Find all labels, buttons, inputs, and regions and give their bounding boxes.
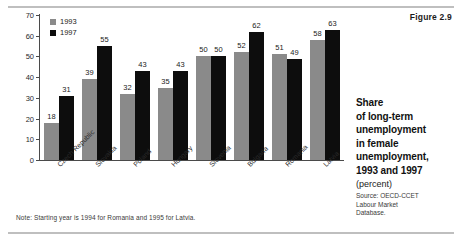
caption-title-line: of long-term: [356, 110, 456, 124]
caption-title: Shareof long-termunemploymentin femaleun…: [356, 96, 456, 177]
bar-value-label: 55: [100, 35, 108, 44]
bar-value-label: 63: [328, 19, 336, 28]
y-axis: 010203040506070: [14, 14, 40, 161]
bar-1993: 50: [196, 56, 211, 160]
y-tick-label: 30: [26, 93, 34, 102]
bar-group: 5149: [268, 54, 306, 160]
top-rule: [8, 6, 454, 8]
bar-value-label: 49: [290, 48, 298, 57]
caption-title-line: 1993 and 1997: [356, 164, 456, 178]
bar-group: 5863: [306, 30, 344, 161]
y-tick-label: 40: [26, 73, 34, 82]
figure-number: Figure 2.9: [410, 12, 452, 22]
bar-value-label: 58: [313, 29, 321, 38]
bar-1993: 58: [310, 40, 325, 160]
caption-title-line: unemployment,: [356, 150, 456, 164]
bar-value-label: 51: [275, 43, 283, 52]
caption-unit: (percent): [356, 178, 456, 190]
y-tick-label: 0: [30, 156, 34, 165]
bar-1993: 51: [272, 54, 287, 160]
bar-1993: 52: [234, 52, 249, 160]
y-tick-label: 50: [26, 52, 34, 61]
caption-title-line: unemployment: [356, 123, 456, 137]
bar-1993: 35: [158, 88, 173, 161]
y-tick-label: 10: [26, 135, 34, 144]
figure-panel: Figure 2.9 010203040506070 1993 1997 183…: [0, 0, 460, 244]
caption-title-line: in female: [356, 137, 456, 151]
caption-source: Source: OECD-CCETLabour MarketDatabase.: [356, 192, 456, 218]
bar-value-label: 52: [237, 41, 245, 50]
bar-value-label: 32: [123, 83, 131, 92]
bar-1997: 63: [325, 30, 340, 161]
bar-group: 3243: [116, 71, 154, 160]
bar-value-label: 50: [214, 45, 222, 54]
bar-value-label: 50: [199, 45, 207, 54]
caption-source-line: Database.: [356, 209, 456, 218]
bar-group: 5050: [192, 56, 230, 160]
y-tick-label: 70: [26, 11, 34, 20]
x-axis-line: [40, 160, 344, 161]
y-tick-label: 20: [26, 114, 34, 123]
bar-1993: 32: [120, 94, 135, 160]
bar-1997: 49: [287, 59, 302, 161]
y-tick-label: 60: [26, 31, 34, 40]
bar-1997: 50: [211, 56, 226, 160]
chart-plot-area: 010203040506070 1993 1997 18313955324335…: [14, 14, 344, 204]
bar-1997: 62: [249, 32, 264, 160]
caption-title-line: Share: [356, 96, 456, 110]
bar-1993: 18: [44, 123, 59, 160]
bar-value-label: 18: [47, 112, 55, 121]
bar-value-label: 43: [176, 60, 184, 69]
bar-value-label: 43: [138, 60, 146, 69]
bar-value-label: 35: [161, 77, 169, 86]
x-axis-labels: Czech RepublicSlovakiaPolandHungarySlove…: [40, 163, 344, 219]
bar-value-label: 62: [252, 21, 260, 30]
bar-1993: 39: [82, 79, 97, 160]
figure-caption: Shareof long-termunemploymentin femaleun…: [356, 96, 456, 218]
bar-group: 5262: [230, 32, 268, 160]
figure-note: Note: Starting year is 1994 for Romania …: [16, 214, 195, 221]
caption-source-line: Source: OECD-CCET: [356, 192, 456, 201]
bar-value-label: 39: [85, 68, 93, 77]
bar-value-label: 31: [62, 85, 70, 94]
bottom-rule: [8, 232, 454, 234]
caption-source-line: Labour Market: [356, 201, 456, 210]
bar-1997: 55: [97, 46, 112, 160]
